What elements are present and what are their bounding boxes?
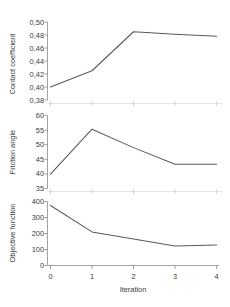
xtick-label: 2	[131, 272, 135, 281]
panel2-ytick-label: 35	[36, 184, 44, 193]
panel3-data-line	[51, 206, 217, 246]
x-axis-label: Iteration	[120, 285, 147, 294]
xtick-label: 0	[48, 272, 52, 281]
panel3-ytick-label: 400	[32, 197, 44, 206]
panel3-ytick-label: 100	[32, 245, 44, 254]
panel3-ytick-label: 300	[32, 213, 44, 222]
panel1-y-axis-label: Contact coefficient	[8, 34, 17, 95]
panel2-ytick-label: 60	[36, 111, 44, 120]
panel2-y-axis-label: Friction angle	[8, 130, 17, 174]
panel1-ytick-label: 0,40	[30, 83, 44, 92]
panel3-y-axis-label: Objective function	[8, 204, 17, 263]
panel1-ytick-label: 0,48	[30, 31, 44, 40]
xtick-label: 1	[90, 272, 94, 281]
panel1-ytick-label: 0,38	[30, 96, 44, 105]
panel2-ytick-label: 55	[36, 126, 44, 135]
panel1-ytick-label: 0,44	[30, 57, 44, 66]
panel3-ytick-label: 200	[32, 229, 44, 238]
panel2-data-line	[51, 129, 217, 174]
xtick-label: 4	[214, 272, 218, 281]
panel2-ytick-label: 50	[36, 140, 44, 149]
panel-objective-function: Objective function 400 300 200 100 0 0 1…	[8, 197, 219, 294]
panel2-ytick-label: 45	[36, 155, 44, 164]
xtick-label: 3	[173, 272, 177, 281]
panel2-ytick-label: 40	[36, 169, 44, 178]
figure-container: Contact coefficient 0,50 0,48 0,46 0,44 …	[0, 0, 230, 307]
panel1-data-line	[51, 32, 217, 87]
panel-contact-coefficient: Contact coefficient 0,50 0,48 0,46 0,44 …	[8, 18, 222, 107]
panel1-ytick-label: 0,42	[30, 70, 44, 79]
panel-friction-angle: Friction angle 60 55 50 45 40 35	[8, 111, 222, 194]
panel1-ytick-label: 0,50	[30, 18, 44, 27]
panel1-ytick-label: 0,46	[30, 44, 44, 53]
multi-panel-line-chart: Contact coefficient 0,50 0,48 0,46 0,44 …	[0, 0, 230, 307]
panel3-ytick-label: 0	[40, 261, 44, 270]
